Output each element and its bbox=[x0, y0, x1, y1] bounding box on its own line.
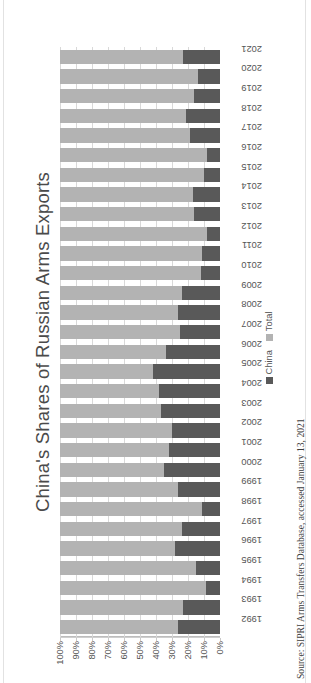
bar-2012 bbox=[60, 226, 220, 240]
bar-segment-china bbox=[183, 49, 220, 63]
legend-label: China bbox=[264, 350, 274, 374]
bar-segment-china bbox=[183, 600, 220, 614]
bar-2014 bbox=[60, 187, 220, 201]
bar-2016 bbox=[60, 148, 220, 162]
bar-2011 bbox=[60, 246, 220, 260]
bar-segment-china bbox=[204, 167, 220, 181]
category-label-2009: 2009 bbox=[241, 279, 262, 289]
bar-segment-total bbox=[60, 600, 183, 614]
bar-2010 bbox=[60, 266, 220, 280]
bar-segment-china bbox=[194, 207, 220, 221]
bar-1999 bbox=[60, 482, 220, 496]
category-label-2003: 2003 bbox=[241, 397, 262, 407]
bar-2019 bbox=[60, 89, 220, 103]
bar-segment-total bbox=[60, 521, 182, 535]
category-label-2017: 2017 bbox=[241, 122, 262, 132]
category-label-2006: 2006 bbox=[241, 338, 262, 348]
bar-2013 bbox=[60, 207, 220, 221]
bar-segment-china bbox=[186, 108, 220, 122]
bar-segment-china bbox=[160, 403, 219, 417]
bar-2007 bbox=[60, 325, 220, 339]
value-tick-10: 10% bbox=[199, 641, 209, 660]
category-label-1998: 1998 bbox=[241, 496, 262, 506]
bar-1998 bbox=[60, 502, 220, 516]
bar-segment-total bbox=[60, 89, 194, 103]
bar-segment-china bbox=[181, 521, 219, 535]
legend-items: ChinaTotal bbox=[261, 300, 277, 396]
category-label-1994: 1994 bbox=[241, 574, 262, 584]
bar-segment-total bbox=[60, 207, 194, 221]
bar-2002 bbox=[60, 423, 220, 437]
bar-2015 bbox=[60, 167, 220, 181]
bar-segment-china bbox=[189, 128, 219, 142]
value-tick-90: 90% bbox=[71, 641, 81, 660]
bar-segment-china bbox=[164, 462, 220, 476]
category-label-1995: 1995 bbox=[241, 555, 262, 565]
category-label-1996: 1996 bbox=[241, 535, 262, 545]
bar-2020 bbox=[60, 69, 220, 83]
bar-segment-china bbox=[207, 148, 220, 162]
bar-segment-total bbox=[60, 443, 169, 457]
legend-label: Total bbox=[264, 312, 274, 332]
bar-1994 bbox=[60, 580, 220, 594]
page-edge-left bbox=[3, 0, 4, 683]
bar-segment-china bbox=[194, 89, 220, 103]
bar-1992 bbox=[60, 620, 220, 634]
bar-segment-total bbox=[60, 246, 202, 260]
category-label-2010: 2010 bbox=[241, 260, 262, 270]
chart-legend: ChinaTotal bbox=[261, 300, 277, 396]
legend-item-total: Total bbox=[264, 312, 274, 342]
category-label-2004: 2004 bbox=[241, 378, 262, 388]
bar-segment-china bbox=[175, 541, 220, 555]
category-label-2021: 2021 bbox=[241, 43, 262, 53]
bar-segment-total bbox=[60, 403, 161, 417]
bar-segment-china bbox=[168, 443, 219, 457]
category-label-2015: 2015 bbox=[241, 161, 262, 171]
bar-segment-china bbox=[205, 580, 219, 594]
bar-segment-total bbox=[60, 364, 153, 378]
bar-segment-total bbox=[60, 482, 178, 496]
category-label-2002: 2002 bbox=[241, 417, 262, 427]
category-label-2007: 2007 bbox=[241, 319, 262, 329]
bar-segment-total bbox=[60, 541, 175, 555]
bar-segment-total bbox=[60, 187, 193, 201]
chart-area: China's Shares of Russian Arms Exports 1… bbox=[30, 19, 282, 665]
category-label-1992: 1992 bbox=[241, 614, 262, 624]
bar-segment-china bbox=[152, 364, 219, 378]
value-tick-0: 0% bbox=[215, 641, 225, 654]
category-label-2011: 2011 bbox=[242, 240, 262, 250]
category-label-2020: 2020 bbox=[241, 63, 262, 73]
bar-2018 bbox=[60, 108, 220, 122]
category-label-1993: 1993 bbox=[241, 594, 262, 604]
category-label-2014: 2014 bbox=[241, 181, 262, 191]
chart-rotated-container: China's Shares of Russian Arms Exports 1… bbox=[30, 19, 282, 665]
bar-1995 bbox=[60, 561, 220, 575]
bar-segment-china bbox=[178, 620, 220, 634]
bar-segment-china bbox=[192, 187, 219, 201]
bar-segment-total bbox=[60, 167, 204, 181]
bar-segment-total bbox=[60, 285, 182, 299]
bar-segment-china bbox=[207, 226, 220, 240]
bar-segment-total bbox=[60, 266, 201, 280]
value-tick-60: 60% bbox=[119, 641, 129, 660]
value-tick-80: 80% bbox=[87, 641, 97, 660]
bar-1996 bbox=[60, 541, 220, 555]
bar-segment-china bbox=[202, 246, 220, 260]
bar-segment-total bbox=[60, 502, 202, 516]
bar-2009 bbox=[60, 285, 220, 299]
bar-segment-total bbox=[60, 561, 196, 575]
bar-segment-china bbox=[178, 482, 220, 496]
value-tick-50: 50% bbox=[135, 641, 145, 660]
bar-2021 bbox=[60, 49, 220, 63]
figure-page: China's Shares of Russian Arms Exports 1… bbox=[0, 0, 311, 683]
category-label-2001: 2001 bbox=[241, 437, 262, 447]
bar-1997 bbox=[60, 521, 220, 535]
source-note-text: Source: SIPRI Arms Transfers Database, a… bbox=[295, 403, 309, 679]
bar-segment-total bbox=[60, 69, 198, 83]
value-tick-40: 40% bbox=[151, 641, 161, 660]
bar-1993 bbox=[60, 600, 220, 614]
bar-segment-china bbox=[180, 325, 220, 339]
bar-segment-total bbox=[60, 108, 186, 122]
value-tick-100: 100% bbox=[55, 641, 65, 665]
bar-segment-china bbox=[200, 266, 219, 280]
